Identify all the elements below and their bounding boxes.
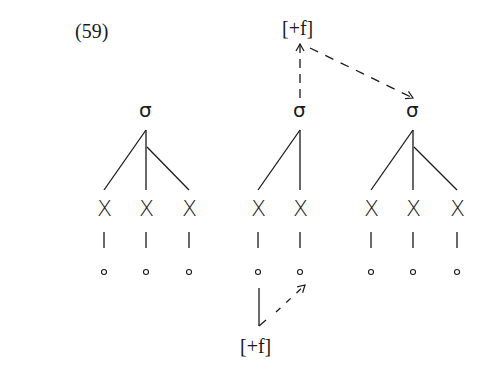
branch-line — [371, 130, 413, 190]
timing-slot — [369, 270, 374, 275]
timing-slot — [187, 270, 192, 275]
dashed-arrow-diagonal — [276, 285, 305, 312]
branch-line — [258, 130, 300, 190]
branch-line — [147, 147, 189, 190]
branch-line — [104, 130, 146, 190]
branch-line — [414, 147, 457, 190]
timing-slot — [102, 270, 107, 275]
timing-slot — [298, 270, 303, 275]
timing-slot — [455, 270, 460, 275]
tree-lines — [0, 0, 496, 386]
timing-slot — [411, 270, 416, 275]
timing-slot — [256, 270, 261, 275]
dashed-arrow-right — [310, 48, 413, 98]
timing-slot — [144, 270, 149, 275]
